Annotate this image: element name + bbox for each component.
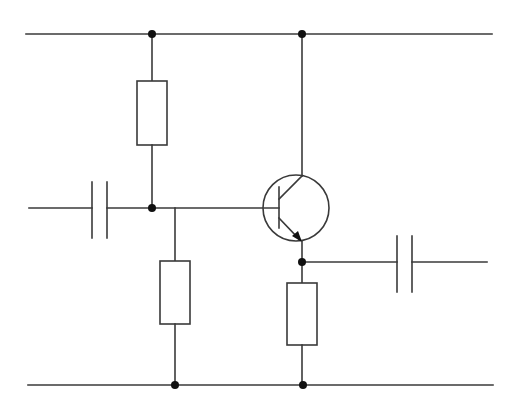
- junction-dot: [298, 30, 306, 38]
- resistor-r3: [287, 283, 317, 345]
- resistor-r2: [160, 261, 190, 324]
- resistor-r1: [137, 81, 167, 145]
- circuit-diagram: [0, 0, 512, 413]
- junction-dot: [298, 258, 306, 266]
- junction-dot: [148, 30, 156, 38]
- junction-dot: [148, 204, 156, 212]
- transistor-q1-collector: [279, 176, 302, 199]
- junction-dot: [171, 381, 179, 389]
- junction-dot: [299, 381, 307, 389]
